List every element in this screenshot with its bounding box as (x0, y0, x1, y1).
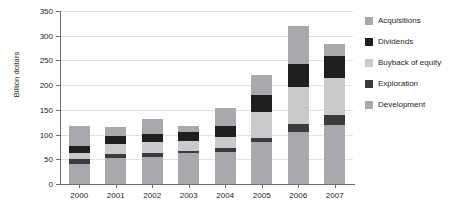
chart-legend: AcquisitionsDividendsBuyback of equityEx… (365, 10, 456, 115)
bar-segment-development (105, 158, 126, 184)
y-tick-label: 100 (40, 130, 53, 139)
x-tick-mark (116, 184, 117, 188)
bar-2001[interactable] (105, 127, 126, 184)
x-tick-mark (262, 184, 263, 188)
bar-segment-dividends (69, 146, 90, 153)
bar-2007[interactable] (324, 44, 345, 184)
y-tick-label: 200 (40, 81, 53, 90)
legend-swatch-icon (365, 38, 373, 46)
y-tick-label: 150 (40, 105, 53, 114)
y-tick-mark (56, 135, 60, 136)
bar-2000[interactable] (69, 126, 90, 184)
bar-segment-development (69, 164, 90, 184)
y-tick-mark (56, 159, 60, 160)
legend-item-exploration[interactable]: Exploration (365, 73, 456, 94)
x-tick-label: 2006 (289, 191, 307, 200)
y-tick-mark (56, 110, 60, 111)
y-tick-mark (56, 11, 60, 12)
bar-segment-buyback-of-equity (324, 78, 345, 115)
bar-segment-dividends (251, 95, 272, 112)
x-tick-mark (79, 184, 80, 188)
y-tick-label: 0 (49, 180, 53, 189)
bar-segment-exploration (324, 115, 345, 125)
legend-swatch-icon (365, 101, 373, 109)
bar-segment-acquisitions (69, 126, 90, 146)
bar-2005[interactable] (251, 75, 272, 184)
x-tick-label: 2001 (107, 191, 125, 200)
bar-2006[interactable] (288, 26, 309, 184)
bar-segment-buyback-of-equity (251, 112, 272, 138)
bar-2004[interactable] (215, 108, 236, 184)
bar-segment-acquisitions (251, 75, 272, 95)
bar-segment-development (178, 153, 199, 184)
bar-segment-buyback-of-equity (105, 144, 126, 154)
x-tick-label: 2007 (326, 191, 344, 200)
bar-segment-dividends (178, 132, 199, 141)
x-tick-label: 2002 (143, 191, 161, 200)
x-tick-label: 2003 (180, 191, 198, 200)
y-tick-label: 300 (40, 31, 53, 40)
legend-label: Buyback of equity (378, 59, 441, 67)
legend-item-development[interactable]: Development (365, 94, 456, 115)
x-tick-mark (189, 184, 190, 188)
legend-swatch-icon (365, 80, 373, 88)
bar-segment-buyback-of-equity (215, 137, 236, 148)
y-axis-title: Billion dollars (12, 35, 21, 115)
bar-segment-dividends (142, 134, 163, 142)
x-tick-label: 2000 (70, 191, 88, 200)
bar-segment-buyback-of-equity (178, 141, 199, 151)
x-tick-mark (298, 184, 299, 188)
legend-label: Exploration (378, 80, 418, 88)
bar-series-container (61, 11, 353, 184)
legend-swatch-icon (365, 59, 373, 67)
y-tick-label: 50 (44, 155, 53, 164)
stacked-bar-chart: Billion dollars 050100150200250300350 20… (0, 0, 456, 207)
bar-segment-dividends (324, 56, 345, 78)
legend-item-dividends[interactable]: Dividends (365, 31, 456, 52)
bar-segment-acquisitions (142, 119, 163, 134)
bar-segment-dividends (215, 126, 236, 137)
legend-label: Acquisitions (378, 17, 421, 25)
bar-segment-development (251, 142, 272, 184)
bar-segment-development (215, 152, 236, 184)
x-tick-mark (152, 184, 153, 188)
y-tick-label: 350 (40, 7, 53, 16)
x-axis-line (60, 184, 355, 185)
bar-segment-dividends (288, 64, 309, 86)
y-tick-mark (56, 184, 60, 185)
legend-label: Dividends (378, 38, 413, 46)
bar-segment-exploration (288, 124, 309, 132)
bar-segment-dividends (105, 136, 126, 145)
bar-segment-development (324, 125, 345, 184)
bar-segment-acquisitions (288, 26, 309, 65)
bar-segment-acquisitions (215, 108, 236, 125)
bar-2003[interactable] (178, 126, 199, 184)
bar-segment-buyback-of-equity (142, 142, 163, 153)
legend-item-acquisitions[interactable]: Acquisitions (365, 10, 456, 31)
legend-label: Development (378, 101, 425, 109)
x-tick-mark (335, 184, 336, 188)
bar-segment-development (142, 157, 163, 184)
bar-segment-buyback-of-equity (288, 87, 309, 124)
plot-area: 050100150200250300350 200020012002200320… (60, 11, 353, 184)
legend-item-buyback-of-equity[interactable]: Buyback of equity (365, 52, 456, 73)
legend-swatch-icon (365, 17, 373, 25)
bar-segment-development (288, 132, 309, 184)
y-tick-mark (56, 85, 60, 86)
bar-segment-acquisitions (324, 44, 345, 55)
x-tick-label: 2004 (216, 191, 234, 200)
y-tick-mark (56, 36, 60, 37)
y-tick-mark (56, 60, 60, 61)
bar-segment-acquisitions (105, 127, 126, 135)
x-tick-label: 2005 (253, 191, 271, 200)
y-tick-label: 250 (40, 56, 53, 65)
bar-2002[interactable] (142, 119, 163, 184)
x-tick-mark (225, 184, 226, 188)
